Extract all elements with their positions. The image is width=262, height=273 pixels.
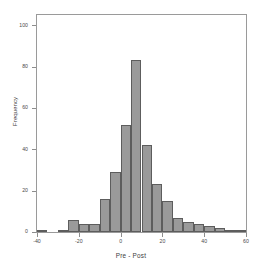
y-axis-title: Frequency <box>11 82 18 142</box>
x-axis-tick-label: 0 <box>109 239 133 244</box>
histogram-bar <box>110 172 120 232</box>
x-axis-tick-label: -40 <box>25 239 49 244</box>
histogram-bar <box>68 220 78 232</box>
x-axis-tick-label: -20 <box>67 239 91 244</box>
histogram-chart: 020406080100-40-200204060 Pre - Post Fre… <box>0 0 262 273</box>
y-axis-tick-label: 20 <box>6 188 28 193</box>
x-axis-tick <box>246 233 247 237</box>
y-axis-tick <box>32 25 36 26</box>
x-axis-tick-label: 60 <box>234 239 258 244</box>
x-axis-tick <box>204 233 205 237</box>
histogram-bar <box>183 222 193 232</box>
histogram-bar <box>236 230 246 232</box>
histogram-bar <box>58 230 68 232</box>
histogram-bar <box>131 60 141 232</box>
x-axis-tick-label: 20 <box>150 239 174 244</box>
y-axis-tick-label: 80 <box>6 64 28 69</box>
histogram-bar <box>162 201 172 232</box>
histogram-bar <box>100 199 110 232</box>
x-axis-tick <box>79 233 80 237</box>
histogram-bar <box>194 224 204 232</box>
histogram-bar <box>142 145 152 232</box>
histogram-bar <box>215 228 225 232</box>
y-axis-tick-label: 0 <box>6 229 28 234</box>
histogram-bar <box>89 224 99 232</box>
y-axis-tick <box>32 232 36 233</box>
histogram-bar <box>152 184 162 232</box>
y-axis-tick-label: 100 <box>6 23 28 28</box>
x-axis-tick <box>162 233 163 237</box>
y-axis-tick <box>32 67 36 68</box>
histogram-bar <box>225 230 235 232</box>
y-axis-tick-label: 40 <box>6 147 28 152</box>
histogram-bar <box>37 230 47 232</box>
x-axis-tick <box>37 233 38 237</box>
y-axis-tick <box>32 191 36 192</box>
histogram-bar <box>121 125 131 232</box>
histogram-bar <box>79 224 89 232</box>
x-axis-tick-label: 40 <box>192 239 216 244</box>
y-axis-tick <box>32 108 36 109</box>
histogram-bar <box>173 218 183 232</box>
x-axis-tick <box>121 233 122 237</box>
bars-layer <box>37 15 246 232</box>
y-axis-tick <box>32 149 36 150</box>
histogram-bar <box>204 226 214 232</box>
x-axis-title: Pre - Post <box>0 252 262 259</box>
